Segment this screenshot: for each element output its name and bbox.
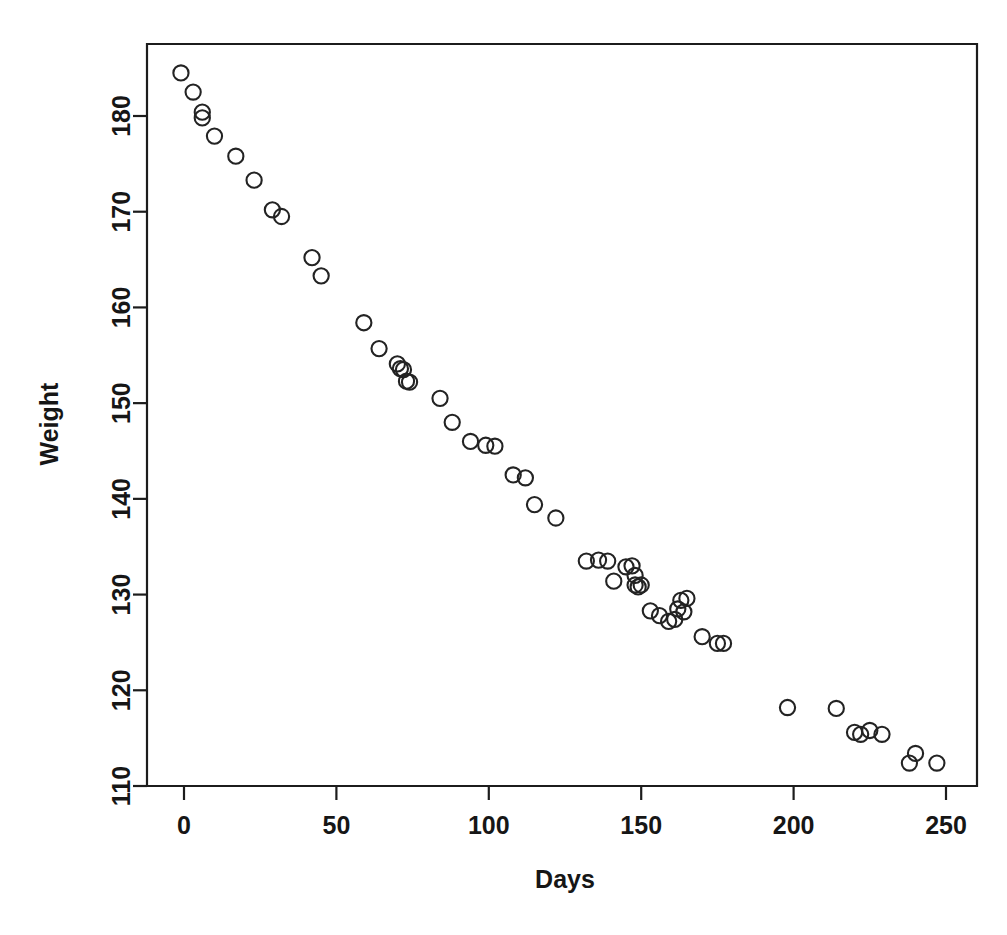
- plot-box: [147, 44, 977, 786]
- x-tick-label: 150: [620, 811, 662, 839]
- data-point: [643, 603, 658, 618]
- data-point: [304, 250, 319, 265]
- y-tick-label: 110: [107, 766, 135, 806]
- data-point: [173, 65, 188, 80]
- data-point: [356, 315, 371, 330]
- data-points-layer: [173, 65, 944, 770]
- y-tick-label: 150: [107, 382, 135, 424]
- data-point: [695, 629, 710, 644]
- data-point: [207, 129, 222, 144]
- y-tick-label: 130: [107, 574, 135, 616]
- y-tick-label: 180: [107, 95, 135, 137]
- y-tick-label: 160: [107, 287, 135, 329]
- scatter-plot-figure: 110120130140150160170180 050100150200250…: [0, 0, 1007, 935]
- data-point: [487, 439, 502, 454]
- data-point: [463, 434, 478, 449]
- data-point: [829, 701, 844, 716]
- x-axis-tick-labels: 050100150200250: [177, 811, 967, 839]
- data-point: [314, 268, 329, 283]
- data-point: [228, 149, 243, 164]
- data-point: [432, 391, 447, 406]
- y-tick-label: 140: [107, 478, 135, 520]
- x-axis-title: Days: [535, 865, 595, 893]
- data-point: [247, 173, 262, 188]
- plot-frame: [147, 44, 977, 786]
- data-point: [445, 415, 460, 430]
- y-tick-label: 120: [107, 669, 135, 711]
- y-tick-label: 170: [107, 191, 135, 233]
- data-point: [527, 497, 542, 512]
- x-tick-label: 100: [468, 811, 510, 839]
- data-point: [548, 510, 563, 525]
- plot-canvas: 110120130140150160170180 050100150200250…: [0, 0, 1007, 935]
- x-tick-label: 50: [322, 811, 350, 839]
- y-axis-ticks: [133, 116, 147, 786]
- data-point: [606, 574, 621, 589]
- y-axis-tick-labels: 110120130140150160170180: [107, 95, 135, 806]
- y-axis-title: Weight: [35, 382, 63, 466]
- x-axis-ticks: [184, 786, 946, 800]
- x-tick-label: 0: [177, 811, 191, 839]
- data-point: [929, 755, 944, 770]
- data-point: [371, 341, 386, 356]
- data-point: [780, 700, 795, 715]
- x-tick-label: 200: [773, 811, 815, 839]
- data-point: [600, 553, 615, 568]
- data-point: [186, 84, 201, 99]
- x-tick-label: 250: [925, 811, 967, 839]
